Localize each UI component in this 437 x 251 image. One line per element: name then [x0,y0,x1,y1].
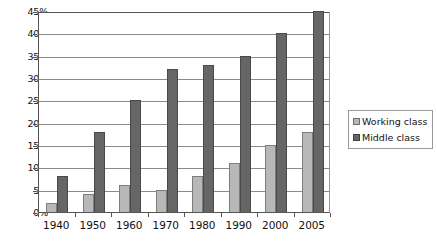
x-axis-tick-label: 1990 [221,219,258,231]
x-axis-tick-mark [111,213,112,217]
x-axis-tick-mark [184,213,185,217]
x-axis-tick-label: 1970 [148,219,185,231]
bar-middle-class [313,11,324,212]
y-axis-tick-mark [33,191,37,192]
bar-working-class [156,190,167,212]
bar-working-class [265,145,276,212]
bar-working-class [192,176,203,212]
x-axis-tick-mark [221,213,222,217]
x-axis-tick-mark [294,213,295,217]
bar-group [258,12,295,212]
y-axis-tick-mark [33,124,37,125]
bar-working-class [302,132,313,212]
bar-group [76,12,113,212]
x-axis-tick-mark [38,213,39,217]
x-axis-tick-mark [330,213,331,217]
x-axis-tick-label: 2000 [257,219,294,231]
x-axis-tick-label: 2005 [294,219,331,231]
y-axis-tick-mark [33,168,37,169]
bar-chart: 45%40%35%30%25%20%15%10%5%0% 19401950196… [0,0,437,251]
y-axis-tick-mark [33,101,37,102]
bar-group [112,12,149,212]
y-axis-tick-mark [33,146,37,147]
y-axis-tick-mark [33,57,37,58]
plot-area [38,12,330,213]
bar-group [295,12,332,212]
bar-working-class [83,194,94,212]
bar-working-class [119,185,130,212]
bar-middle-class [167,69,178,212]
legend-item-label: Working class [362,115,427,128]
y-axis-tick-mark [33,213,37,214]
bar-middle-class [57,176,68,212]
x-axis-tick-label: 1950 [75,219,112,231]
y-axis-tick-mark [33,12,37,13]
x-axis-tick-mark [257,213,258,217]
x-axis-tick-mark [148,213,149,217]
bar-working-class [229,163,240,212]
x-axis-tick-label: 1980 [184,219,221,231]
bar-group [185,12,222,212]
bar-middle-class [276,33,287,212]
chart-legend: Working classMiddle class [348,110,433,149]
y-axis-tick-mark [33,34,37,35]
y-axis-tick-mark [33,79,37,80]
bar-middle-class [240,56,251,212]
legend-item-label: Middle class [362,131,420,144]
x-axis-tick-label: 1960 [111,219,148,231]
bar-group [222,12,259,212]
bar-middle-class [94,132,105,212]
x-axis-tick-mark [75,213,76,217]
x-axis-tick-label: 1940 [38,219,75,231]
legend-item[interactable]: Working class [353,115,427,128]
legend-swatch-working-icon [353,118,360,125]
bar-group [149,12,186,212]
legend-item[interactable]: Middle class [353,131,427,144]
bar-group [39,12,76,212]
bar-middle-class [203,65,214,212]
bar-middle-class [130,100,141,212]
legend-swatch-middle-icon [353,134,360,141]
bar-working-class [46,203,57,212]
